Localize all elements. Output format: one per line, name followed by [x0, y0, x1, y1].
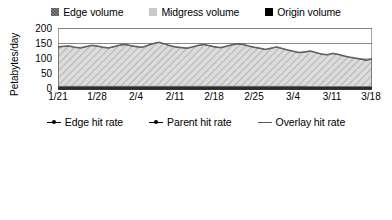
volume-plot-area: [58, 28, 372, 90]
volume-x-tick-5: 2/25: [237, 92, 271, 102]
volume-x-tick-1: 1/28: [80, 92, 114, 102]
legend-item-overlay-hit-rate: Overlay hit rate: [258, 117, 346, 127]
legend-label-overlay-hit-rate: Overlay hit rate: [276, 117, 346, 127]
legend-item-midgress-volume: Midgress volume: [149, 7, 239, 17]
parent-hit-rate-marker-icon: [149, 118, 163, 126]
hit-rate-chart-legend: Edge hit rate Parent hit rate Overlay hi…: [0, 114, 392, 130]
volume-y-tick-150: 150: [26, 40, 52, 48]
legend-item-origin-volume: Origin volume: [265, 7, 340, 17]
legend-label-edge-hit-rate: Edge hit rate: [65, 117, 123, 127]
legend-item-edge-hit-rate: Edge hit rate: [47, 117, 123, 127]
volume-x-tick-4: 2/18: [197, 92, 231, 102]
midgress-volume-swatch-icon: [149, 8, 157, 16]
volume-y-tick-100: 100: [26, 55, 52, 63]
volume-chart-legend: Edge volume Midgress volume Origin volum…: [0, 4, 392, 20]
volume-y-tick-200: 200: [26, 25, 52, 33]
volume-x-tick-7: 3/11: [315, 92, 349, 102]
overlay-hit-rate-marker-icon: [258, 118, 272, 126]
legend-label-parent-hit-rate: Parent hit rate: [167, 117, 231, 127]
origin-volume-swatch-icon: [265, 8, 273, 16]
volume-chart-panel: Edge volume Midgress volume Origin volum…: [0, 0, 392, 110]
legend-item-parent-hit-rate: Parent hit rate: [149, 117, 231, 127]
volume-x-tick-8: 3/18: [354, 92, 388, 102]
volume-x-tick-3: 2/11: [158, 92, 192, 102]
volume-x-tick-0: 1/21: [41, 92, 75, 102]
volume-area-svg: [58, 28, 372, 90]
volume-area-series: [58, 42, 372, 90]
volume-x-tick-2: 2/4: [119, 92, 153, 102]
volume-x-tick-6: 3/4: [276, 92, 310, 102]
legend-item-edge-volume: Edge volume: [51, 7, 123, 17]
legend-label-origin-volume: Origin volume: [277, 7, 340, 17]
edge-volume-swatch-icon: [51, 8, 59, 16]
figure-container: Edge volume Midgress volume Origin volum…: [0, 0, 392, 220]
edge-hit-rate-marker-icon: [47, 118, 61, 126]
volume-y-tick-50: 50: [26, 70, 52, 78]
hit-rate-chart-panel: Edge hit rate Parent hit rate Overlay hi…: [0, 110, 392, 220]
volume-y-axis-label: Petabytes/day: [9, 33, 20, 96]
legend-label-midgress-volume: Midgress volume: [161, 7, 239, 17]
legend-label-edge-volume: Edge volume: [63, 7, 123, 17]
